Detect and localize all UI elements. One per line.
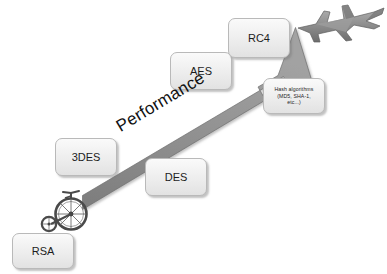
algo-box-rc4[interactable]: RC4 (228, 18, 290, 58)
hash-line-2: (MD5, SHA-1, (277, 93, 310, 99)
algo-box-rsa-label: RSA (32, 245, 55, 258)
algo-box-des[interactable]: DES (145, 158, 207, 196)
fighter-jet-icon (298, 5, 384, 42)
algo-box-des-label: DES (165, 171, 188, 184)
algo-box-3des-label: 3DES (72, 151, 101, 164)
hash-line-1: Hash algorithms (275, 86, 314, 92)
algo-box-rc4-label: RC4 (248, 32, 270, 45)
algo-box-hash-algorithms[interactable]: Hash algorithms (MD5, SHA-1, etc...) (263, 78, 325, 114)
algo-box-3des[interactable]: 3DES (55, 138, 117, 176)
algo-box-hash-algorithms-label: Hash algorithms (MD5, SHA-1, etc...) (275, 86, 314, 107)
diagram-canvas: RSA 3DES DES AES RC4 Hash algorithms (MD… (0, 0, 387, 274)
penny-farthing-bicycle-icon (42, 191, 87, 231)
algo-box-rsa[interactable]: RSA (12, 233, 74, 269)
hash-line-3: etc...) (287, 99, 301, 105)
